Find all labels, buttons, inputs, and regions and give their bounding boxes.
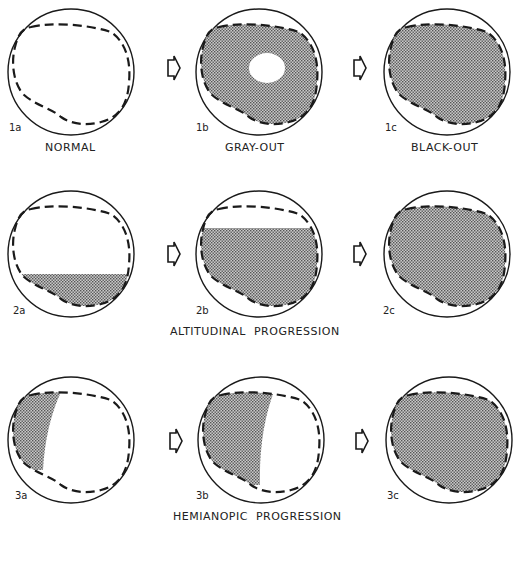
panel-1b	[196, 9, 322, 135]
gray-region	[191, 380, 279, 485]
state-label: GRAY-OUT	[225, 141, 285, 154]
central-vision-spot	[249, 53, 285, 83]
panel-3a	[1, 377, 134, 503]
arrow-icon	[354, 242, 366, 266]
gray-region	[389, 206, 505, 306]
panel-id: 2c	[383, 305, 395, 316]
gray-region	[389, 24, 505, 124]
field-boundary	[13, 24, 129, 124]
panel-3b	[191, 377, 324, 503]
arrow-icon	[354, 56, 366, 80]
panel-id: 2b	[196, 305, 209, 316]
panel-id: 2a	[13, 305, 26, 316]
arrow-icon	[356, 429, 368, 453]
panel-id: 3b	[196, 490, 209, 501]
panel-id: 3a	[15, 490, 28, 501]
panel-3c	[386, 377, 512, 503]
state-label: NORMAL	[45, 141, 96, 154]
panel-id: 1b	[196, 122, 209, 133]
panel-id: 1c	[385, 122, 397, 133]
panel-2c	[384, 191, 510, 317]
arrow-icon	[168, 242, 180, 266]
panel-id: 1a	[9, 122, 22, 133]
panel-2b	[189, 191, 329, 328]
row-title: HEMIANOPIC PROGRESSION	[173, 510, 342, 523]
state-label: BLACK-OUT	[411, 141, 478, 154]
visual-field-diagram	[0, 0, 526, 563]
panel-id: 3c	[387, 490, 399, 501]
gray-region	[391, 392, 507, 492]
row-title: ALTITUDINAL PROGRESSION	[170, 325, 340, 338]
arrow-icon	[170, 429, 182, 453]
panel-1c	[384, 9, 510, 135]
arrow-icon	[168, 56, 180, 80]
gray-region	[189, 228, 329, 328]
panel-1a	[8, 9, 134, 135]
